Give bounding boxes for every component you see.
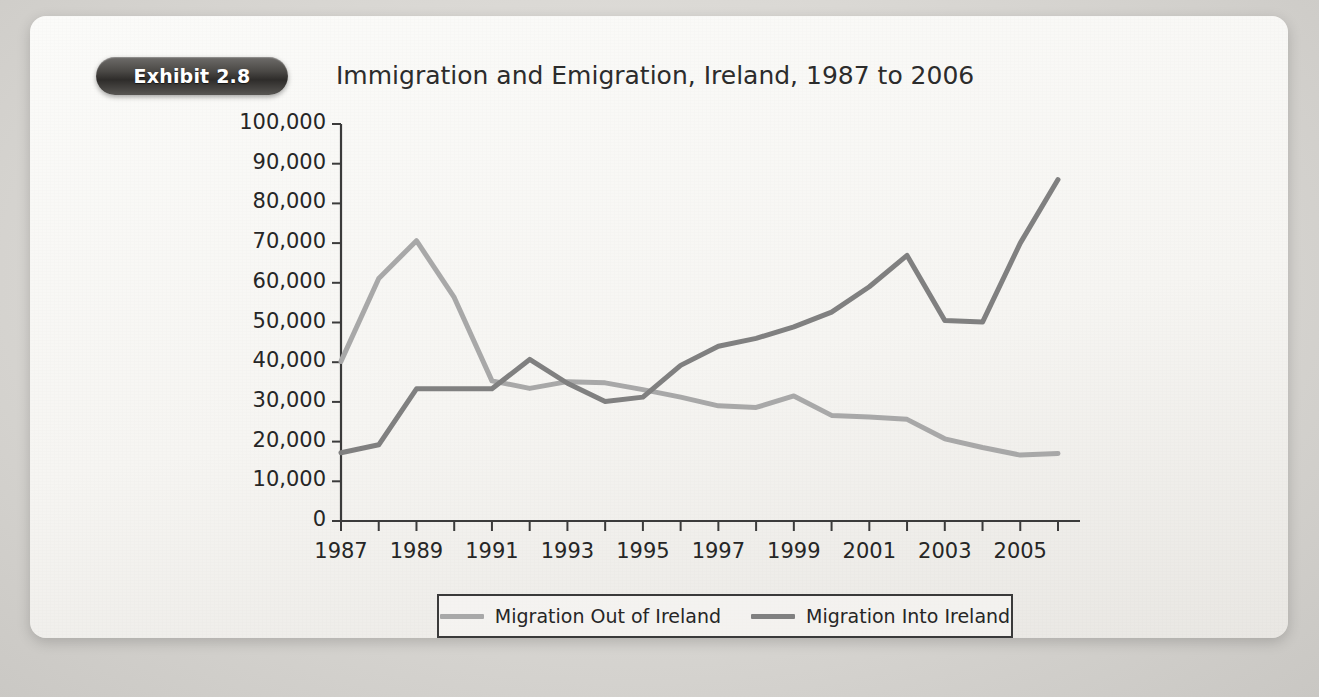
chart-legend: Migration Out of IrelandMigration Into I… (437, 594, 1013, 638)
x-axis-tick-label: 2003 (905, 539, 985, 563)
x-axis-tick-label: 1987 (301, 539, 381, 563)
legend-item-0: Migration Out of Ireland (440, 605, 721, 627)
x-axis-tick-label: 1993 (527, 539, 607, 563)
x-axis-tick-label: 1999 (754, 539, 834, 563)
page-background: Exhibit 2.8 Immigration and Emigration, … (0, 0, 1319, 697)
y-axis-tick-label: 90,000 (253, 150, 326, 174)
legend-label: Migration Out of Ireland (495, 605, 721, 627)
y-axis-tick-label: 30,000 (253, 388, 326, 412)
legend-label: Migration Into Ireland (806, 605, 1010, 627)
exhibit-card: Exhibit 2.8 Immigration and Emigration, … (30, 16, 1288, 638)
x-axis-tick-label: 2005 (980, 539, 1060, 563)
x-axis-tick-label: 1989 (376, 539, 456, 563)
y-axis-tick-label: 60,000 (253, 269, 326, 293)
y-axis-tick-label: 20,000 (253, 428, 326, 452)
y-axis-tick-label: 10,000 (253, 467, 326, 491)
y-axis-tick-label: 70,000 (253, 229, 326, 253)
legend-item-1: Migration Into Ireland (751, 605, 1010, 627)
y-axis-tick-label: 0 (313, 507, 326, 531)
y-axis-tick-label: 100,000 (239, 110, 326, 134)
y-axis-tick-label: 40,000 (253, 348, 326, 372)
series-line-0 (341, 241, 1058, 455)
x-axis-tick-label: 1997 (678, 539, 758, 563)
line-chart: 010,00020,00030,00040,00050,00060,00070,… (30, 16, 1288, 638)
y-axis-tick-label: 50,000 (253, 309, 326, 333)
x-axis-tick-label: 1995 (603, 539, 683, 563)
legend-swatch-icon (440, 614, 484, 619)
series-line-1 (341, 180, 1058, 453)
x-axis-tick-label: 2001 (829, 539, 909, 563)
legend-swatch-icon (751, 614, 795, 619)
y-axis-tick-label: 80,000 (253, 189, 326, 213)
x-axis-tick-label: 1991 (452, 539, 532, 563)
